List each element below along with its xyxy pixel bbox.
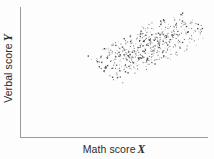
scatter-plot-figure: Verbal scoreY Math scoreX <box>0 0 214 159</box>
y-axis-label-text: Verbal score <box>2 43 14 103</box>
y-axis-label: Verbal scoreY <box>1 0 15 148</box>
scatter-points-layer <box>0 0 214 137</box>
y-axis-variable-symbol: Y <box>2 34 14 43</box>
x-axis-label-text: Math score <box>83 143 136 155</box>
plot-area <box>21 0 208 137</box>
x-axis-variable-symbol: X <box>136 143 146 155</box>
x-axis-label: Math scoreX <box>20 143 208 155</box>
x-axis-line <box>20 137 208 138</box>
